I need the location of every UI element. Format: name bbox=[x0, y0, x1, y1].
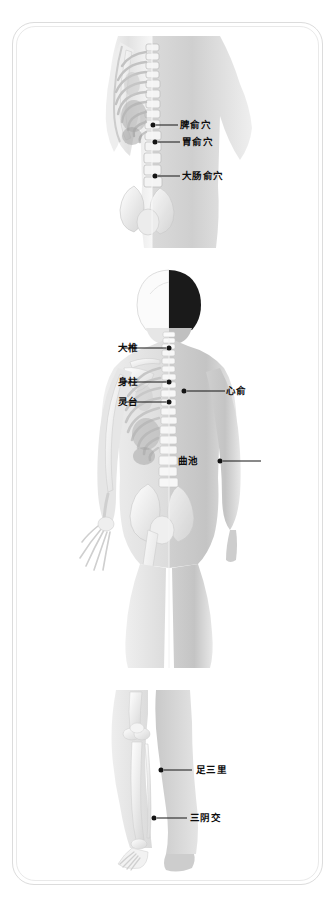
acupoint-marker[interactable] bbox=[152, 816, 157, 821]
acupoint-label[interactable]: 心俞 bbox=[226, 386, 247, 396]
acupoint-marker[interactable] bbox=[182, 389, 187, 394]
acupoint-label[interactable]: 曲池 bbox=[178, 456, 199, 466]
acupoint-label[interactable]: 大肠俞穴 bbox=[182, 171, 224, 181]
acupoint-leader-line bbox=[223, 461, 261, 462]
panel-back-torso: 脾俞穴胃俞穴大肠俞穴 bbox=[100, 36, 258, 248]
panel-full-body: 大椎身柱灵台心俞曲池 bbox=[58, 268, 278, 668]
acupoint-leader-line bbox=[158, 142, 180, 143]
acupoint-label[interactable]: 身柱 bbox=[118, 377, 139, 387]
acupoint-label[interactable]: 脾俞穴 bbox=[180, 120, 211, 130]
acupoint-leader-line bbox=[156, 125, 178, 126]
acupoint-label[interactable]: 三阴交 bbox=[190, 813, 221, 823]
acupoint-marker[interactable] bbox=[167, 380, 172, 385]
chart-page: 脾俞穴胃俞穴大肠俞穴 bbox=[0, 0, 335, 910]
acupoint-label[interactable]: 灵台 bbox=[118, 397, 139, 407]
acupoint-marker[interactable] bbox=[153, 140, 158, 145]
acupoint-marker[interactable] bbox=[218, 459, 223, 464]
acupoint-label[interactable]: 足三里 bbox=[196, 765, 227, 775]
acupoint-leader-line bbox=[164, 770, 192, 771]
acupoint-label[interactable]: 大椎 bbox=[118, 343, 139, 353]
acupoint-marker[interactable] bbox=[151, 123, 156, 128]
panel-lower-legs: 足三里三阴交 bbox=[104, 688, 216, 876]
acupoint-marker[interactable] bbox=[159, 768, 164, 773]
acupoint-leader-line bbox=[187, 391, 225, 392]
acupoint-marker[interactable] bbox=[167, 346, 172, 351]
acupoint-leader-line bbox=[158, 176, 180, 177]
acupoint-marker[interactable] bbox=[167, 400, 172, 405]
acupoint-leader-line bbox=[157, 818, 187, 819]
full-body-figure bbox=[58, 268, 278, 668]
acupoint-label[interactable]: 胃俞穴 bbox=[182, 137, 213, 147]
acupoint-marker[interactable] bbox=[153, 174, 158, 179]
lower-legs-figure bbox=[104, 688, 216, 876]
